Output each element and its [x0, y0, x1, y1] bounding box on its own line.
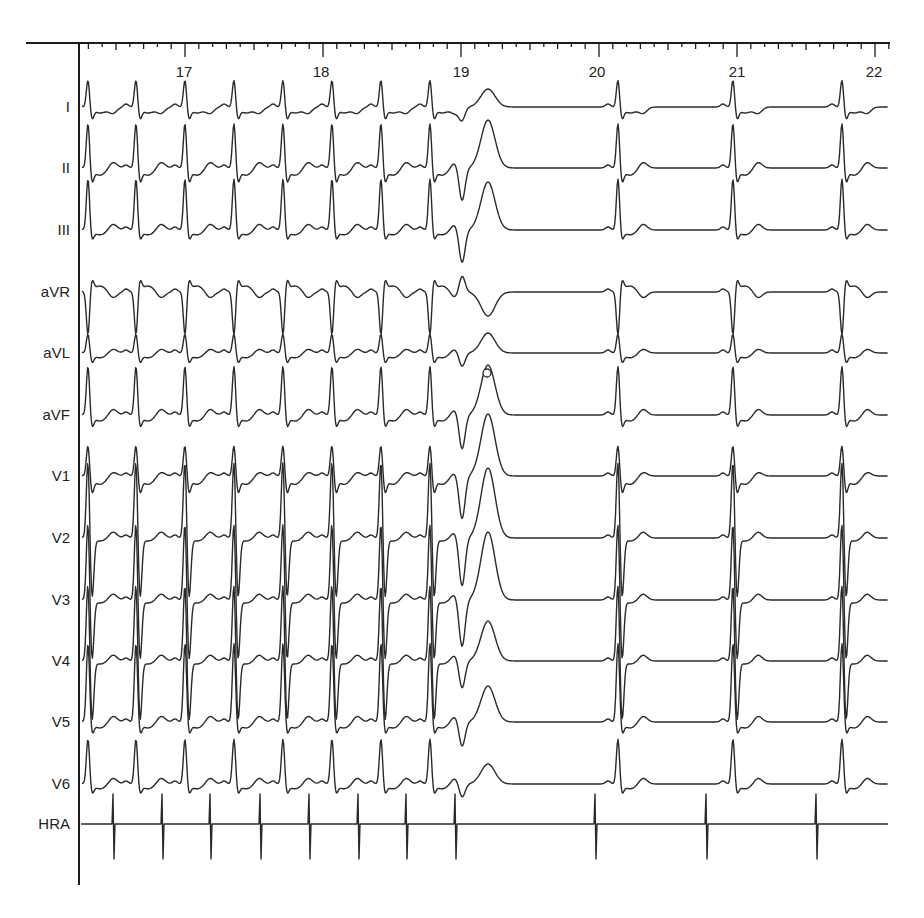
- ecg-chart: 171819202122 IIIIIIaVRaVLaVFV1V2V3V4V5V6…: [0, 0, 924, 918]
- lead-label-i: I: [66, 98, 70, 115]
- annotations: [483, 369, 491, 377]
- trace-avr: [82, 277, 888, 335]
- trace-avl: [82, 333, 888, 366]
- tick-label: 17: [176, 63, 193, 80]
- trace-iii: [82, 179, 888, 262]
- trace-v1: [82, 414, 888, 518]
- lead-label-v3: V3: [52, 591, 70, 608]
- tick-label: 19: [453, 63, 470, 80]
- lead-label-v1: V1: [52, 467, 70, 484]
- trace-avf: [82, 365, 888, 449]
- tick-label: 20: [589, 63, 606, 80]
- lead-label-avf: aVF: [42, 406, 70, 423]
- trace-v5: [82, 644, 888, 746]
- trace-v4: [82, 586, 888, 720]
- lead-label-v5: V5: [52, 713, 70, 730]
- lead-label-v2: V2: [52, 529, 70, 546]
- trace-hra: [81, 794, 888, 859]
- lead-label-avl: aVL: [43, 344, 70, 361]
- lead-label-iii: III: [57, 221, 70, 238]
- tick-label: 21: [729, 63, 746, 80]
- tick-label: 22: [866, 63, 883, 80]
- tick-label: 18: [313, 63, 330, 80]
- ecg-traces: [81, 81, 888, 859]
- trace-v2: [82, 463, 888, 597]
- trace-i: [82, 81, 888, 121]
- lead-label-avr: aVR: [41, 283, 70, 300]
- lead-label-v4: V4: [52, 652, 70, 669]
- trace-v6: [82, 739, 888, 796]
- lead-labels: IIIIIIaVRaVLaVFV1V2V3V4V5V6HRA: [38, 98, 70, 832]
- trace-v3: [82, 525, 888, 659]
- circle-marker: [483, 369, 491, 377]
- lead-label-ii: II: [62, 159, 70, 176]
- lead-label-v6: V6: [52, 775, 70, 792]
- lead-label-hra: HRA: [38, 815, 70, 832]
